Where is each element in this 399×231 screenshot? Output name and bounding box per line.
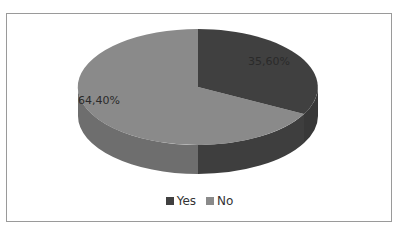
data-label-no: 64,40% <box>78 94 120 107</box>
legend-item-no[interactable]: No <box>206 194 233 208</box>
legend-label-no: No <box>217 194 233 208</box>
legend-label-yes: Yes <box>177 194 196 208</box>
chart-legend: Yes No <box>0 194 399 208</box>
data-label-yes: 35,60% <box>248 55 290 68</box>
legend-item-yes[interactable]: Yes <box>166 194 196 208</box>
legend-swatch-no <box>206 197 214 205</box>
legend-swatch-yes <box>166 197 174 205</box>
